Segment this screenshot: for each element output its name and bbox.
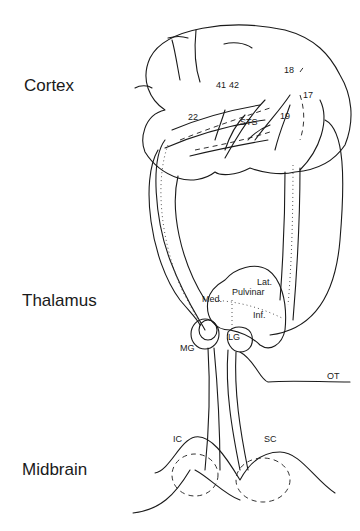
area-22-label: 22 xyxy=(188,112,198,122)
area-42-label: 42 xyxy=(229,80,239,90)
ot-label: OT xyxy=(327,371,340,381)
sts-label: STS xyxy=(240,117,258,127)
ic-outline xyxy=(172,454,218,496)
area-17-label: 17 xyxy=(303,90,313,100)
lateral-pulvinar-label: Lat. xyxy=(257,277,272,287)
area-41-label: 41 xyxy=(216,80,226,90)
sc-label: SC xyxy=(264,434,277,444)
sc-outline xyxy=(236,458,290,502)
midbrain xyxy=(133,437,335,513)
subcortical-fibers xyxy=(205,348,248,470)
mg-label: MG xyxy=(180,343,195,353)
inferior-pulvinar-label: Inf. xyxy=(253,310,266,320)
lg-label: LG xyxy=(228,332,240,342)
ic-label: IC xyxy=(173,434,183,444)
pulvinar-label: Pulvinar xyxy=(232,287,265,297)
cortex-hemisphere xyxy=(135,25,351,180)
medial-pulvinar-label: Med. xyxy=(202,294,222,304)
brain-pathway-diagram: 41 42 22 18 17 19 STS Pulvinar Lat. Med. xyxy=(0,0,360,531)
area-18-label: 18 xyxy=(284,65,294,75)
